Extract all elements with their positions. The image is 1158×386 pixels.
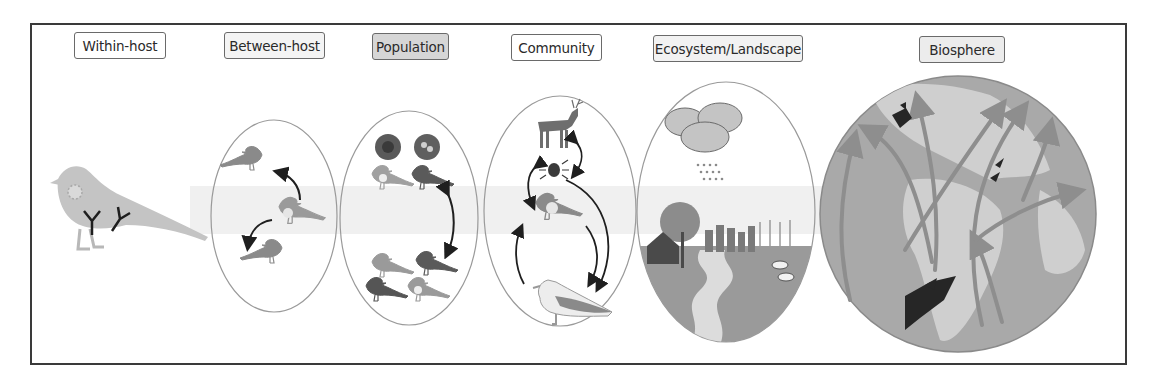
rain-icon <box>697 164 724 181</box>
bird-icon <box>240 239 282 263</box>
label-within-host: Within-host <box>74 32 166 59</box>
bird-icon <box>416 251 458 275</box>
gull-icon <box>533 280 612 324</box>
virus-icon <box>68 185 82 199</box>
bird-icon <box>412 165 454 189</box>
label-population: Population <box>372 33 449 60</box>
label-community: Community <box>511 34 602 61</box>
bird-icon <box>220 146 262 170</box>
nest-icon <box>414 134 440 160</box>
clouds-icon <box>665 103 742 152</box>
label-between-host: Between-host <box>224 32 325 59</box>
label-biosphere: Biosphere <box>919 36 1005 63</box>
label-ecosystem-landscape: Ecosystem/Landscape <box>653 35 803 62</box>
bird-icon <box>366 277 408 301</box>
bird-icon <box>372 165 414 189</box>
biosphere-panel <box>820 76 1096 352</box>
deer-icon <box>538 99 583 148</box>
tick-icon <box>539 160 569 179</box>
within-host-bird-icon <box>50 166 208 249</box>
bird-icon <box>372 253 414 277</box>
arrow-icon <box>574 141 582 175</box>
arrow-icon <box>516 228 524 284</box>
arrow-icon <box>586 226 597 283</box>
